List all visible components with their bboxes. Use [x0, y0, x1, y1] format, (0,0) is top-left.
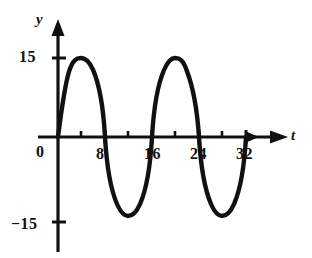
origin-label: 0	[36, 144, 45, 160]
y-axis-label: y	[36, 12, 43, 27]
x-tick-label-8: 8	[96, 146, 105, 162]
y-tick-label-15: 15	[19, 49, 36, 65]
x-tick-label-16: 16	[144, 146, 161, 162]
t-axis-arrowhead	[270, 131, 288, 144]
x-tick-label-24: 24	[190, 146, 207, 162]
t-axis-label: t	[291, 128, 295, 143]
y-tick-label-neg15: −15	[11, 216, 38, 232]
plot-canvas	[0, 0, 312, 258]
y-axis-arrowhead	[52, 19, 65, 36]
x-tick-label-32: 32	[236, 146, 253, 162]
sine-wave-figure: y t 15 −15 0 8 16 24 32	[0, 0, 312, 258]
